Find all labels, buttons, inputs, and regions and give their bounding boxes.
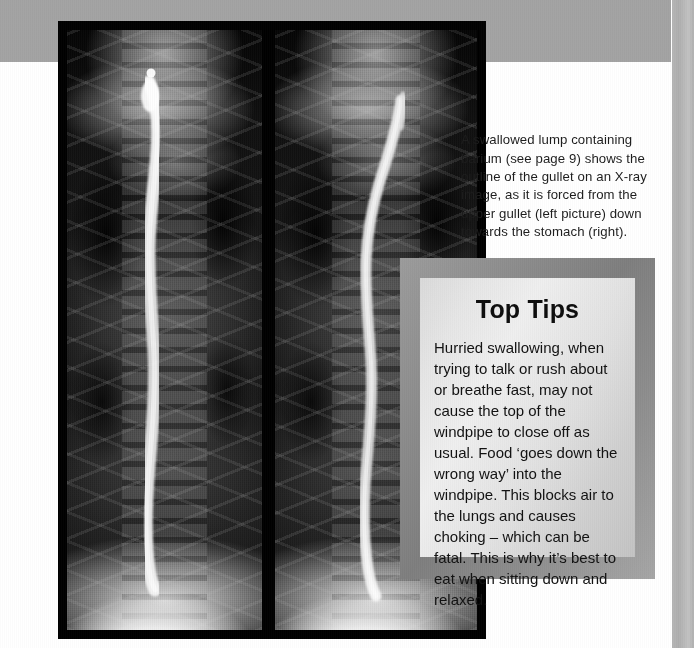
xray-panel-upper-gullet [67, 30, 262, 630]
top-tips-box: Top Tips Hurried swallowing, when trying… [400, 258, 655, 579]
top-tips-body: Hurried swallowing, when trying to talk … [434, 337, 621, 610]
top-tips-panel: Top Tips Hurried swallowing, when trying… [420, 278, 635, 557]
figure-caption: A swallowed lump containing barium (see … [461, 131, 647, 241]
right-decorative-band [672, 0, 694, 648]
top-tips-title: Top Tips [434, 296, 621, 322]
xray-film-grain [67, 30, 262, 630]
